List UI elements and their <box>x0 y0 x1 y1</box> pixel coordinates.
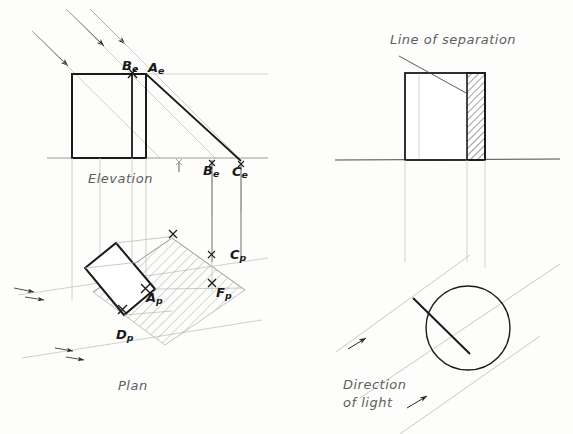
technical-drawing-canvas <box>0 0 573 434</box>
plan-title: Plan <box>118 378 148 393</box>
separation-figure <box>335 56 560 268</box>
plan-point-label-Ap: Ap <box>146 290 163 306</box>
circle-separation-chord <box>413 298 470 354</box>
plan-point-label-Fp: Fp <box>216 285 232 301</box>
plan-point-label-Dp: Dp <box>116 327 134 343</box>
elevation-point-label-Ce: Ce <box>232 164 248 180</box>
direction-of-light-line1: Direction <box>343 376 407 394</box>
plan-point-label-Cp: Cp <box>230 247 246 263</box>
separation-shaded-band <box>467 73 485 160</box>
separation-to-circle-projectors <box>405 160 485 268</box>
elevation-construction-rays <box>32 9 240 159</box>
direction-of-light-annotation: Direction of light <box>343 376 407 411</box>
elevation-title: Elevation <box>88 171 153 186</box>
drawing-sheet: Be Ae Be Ce Elevation Ap Dp Cp Fp Plan L… <box>0 0 573 434</box>
light-ray-arrows-elevation <box>32 9 125 66</box>
elevation-object-rectangle <box>72 74 146 158</box>
elevation-shadow-ray-A-to-C <box>146 74 241 161</box>
plan-light-direction-arrows <box>14 288 84 360</box>
elevation-point-label-Ae: Ae <box>148 60 164 76</box>
direction-of-light-line2: of light <box>343 394 407 412</box>
elevation-point-label-Be-top: Be <box>122 58 138 74</box>
light-circle <box>426 286 510 370</box>
elevation-point-label-Be-ground: Be <box>203 163 219 179</box>
line-of-separation-annotation: Line of separation <box>390 32 516 47</box>
